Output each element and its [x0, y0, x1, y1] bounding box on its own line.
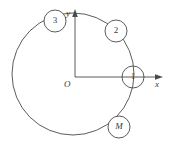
node-label-1: 1: [128, 72, 138, 81]
node-label-3: 3: [50, 16, 60, 25]
x-axis-label: x: [155, 79, 159, 89]
y-axis-label: y: [66, 8, 70, 18]
node-label-m: M: [113, 122, 125, 131]
node-label-2: 2: [111, 26, 121, 35]
orbit-diagram: 1 2 3 M O x y: [0, 0, 169, 151]
origin-label: O: [64, 79, 71, 89]
orbit-diagram-canvas: [0, 0, 169, 151]
